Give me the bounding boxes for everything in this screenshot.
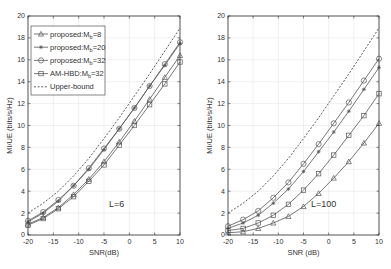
y-tick-label: 2 xyxy=(221,210,225,217)
figure: -20-15-10-5051002468101214161820SNR(dB)M… xyxy=(0,0,391,269)
plot-right-L100: -20-15-10-5051002468101214161820SNR (dB)… xyxy=(0,0,391,269)
plot-1: -20-15-10-5051002468101214161820SNR (dB)… xyxy=(205,12,383,257)
y-tick-label: 14 xyxy=(217,78,225,85)
y-tick-label: 10 xyxy=(217,122,225,129)
x-tick-label: 5 xyxy=(352,238,356,245)
asterisk-marker-icon xyxy=(256,213,260,217)
asterisk-marker-icon xyxy=(287,187,291,191)
asterisk-marker-icon xyxy=(347,109,351,113)
asterisk-marker-icon xyxy=(317,150,321,154)
y-tick-label: 0 xyxy=(221,231,225,238)
y-axis-label: MI/UE (bits/s/Hz) xyxy=(205,97,214,154)
y-tick-label: 8 xyxy=(221,144,225,151)
y-tick-label: 6 xyxy=(221,166,225,173)
asterisk-marker-icon xyxy=(362,87,366,91)
y-tick-label: 18 xyxy=(217,34,225,41)
x-tick-label: -20 xyxy=(223,238,233,245)
x-tick-label: -15 xyxy=(248,238,258,245)
tick-labels: -20-15-10-5051002468101214161820 xyxy=(217,12,383,245)
y-tick-label: 16 xyxy=(217,56,225,63)
asterisk-marker-icon xyxy=(271,201,275,205)
x-tick-label: 10 xyxy=(375,238,383,245)
asterisk-marker-icon xyxy=(332,130,336,134)
x-tick-label: -10 xyxy=(273,238,283,245)
y-tick-label: 4 xyxy=(221,188,225,195)
y-tick-label: 20 xyxy=(217,12,225,19)
y-tick-label: 12 xyxy=(217,100,225,107)
x-tick-label: -5 xyxy=(300,238,306,245)
x-tick-label: 0 xyxy=(327,238,331,245)
annotation-label: L=100 xyxy=(311,199,336,209)
asterisk-marker-icon xyxy=(302,170,306,174)
x-axis-label: SNR (dB) xyxy=(287,248,320,257)
